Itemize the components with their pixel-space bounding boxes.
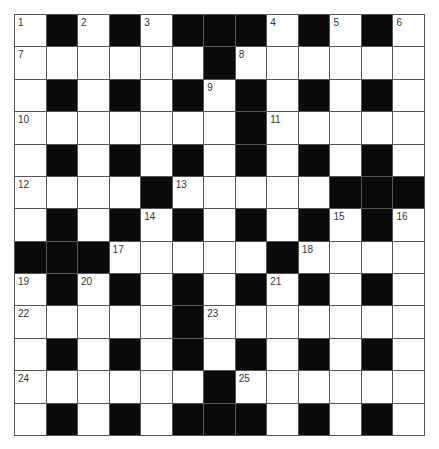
letter-cell[interactable] (141, 339, 172, 370)
letter-cell[interactable] (78, 177, 109, 208)
letter-cell[interactable] (330, 47, 361, 78)
letter-cell[interactable] (78, 404, 109, 435)
letter-cell[interactable]: 3 (141, 15, 172, 46)
letter-cell[interactable] (47, 371, 78, 402)
letter-cell[interactable]: 21 (267, 274, 298, 305)
letter-cell[interactable] (141, 306, 172, 337)
letter-cell[interactable]: 1 (15, 15, 46, 46)
letter-cell[interactable] (110, 177, 141, 208)
letter-cell[interactable] (110, 306, 141, 337)
letter-cell[interactable]: 7 (15, 47, 46, 78)
letter-cell[interactable] (299, 177, 330, 208)
letter-cell[interactable] (236, 306, 267, 337)
letter-cell[interactable] (393, 242, 424, 273)
letter-cell[interactable]: 18 (299, 242, 330, 273)
letter-cell[interactable] (78, 371, 109, 402)
letter-cell[interactable] (393, 145, 424, 176)
letter-cell[interactable] (47, 177, 78, 208)
letter-cell[interactable] (78, 47, 109, 78)
letter-cell[interactable] (47, 112, 78, 143)
letter-cell[interactable] (236, 177, 267, 208)
letter-cell[interactable] (173, 371, 204, 402)
letter-cell[interactable] (15, 209, 46, 240)
letter-cell[interactable] (299, 47, 330, 78)
letter-cell[interactable] (362, 242, 393, 273)
letter-cell[interactable]: 24 (15, 371, 46, 402)
letter-cell[interactable] (267, 177, 298, 208)
letter-cell[interactable]: 15 (330, 209, 361, 240)
letter-cell[interactable] (204, 242, 235, 273)
letter-cell[interactable] (78, 339, 109, 370)
letter-cell[interactable]: 20 (78, 274, 109, 305)
letter-cell[interactable] (362, 47, 393, 78)
letter-cell[interactable] (330, 274, 361, 305)
letter-cell[interactable]: 5 (330, 15, 361, 46)
letter-cell[interactable] (267, 209, 298, 240)
letter-cell[interactable] (267, 306, 298, 337)
letter-cell[interactable]: 12 (15, 177, 46, 208)
letter-cell[interactable] (362, 306, 393, 337)
letter-cell[interactable] (330, 306, 361, 337)
letter-cell[interactable] (173, 112, 204, 143)
letter-cell[interactable] (362, 112, 393, 143)
letter-cell[interactable]: 17 (110, 242, 141, 273)
letter-cell[interactable] (173, 242, 204, 273)
letter-cell[interactable] (393, 371, 424, 402)
letter-cell[interactable] (393, 306, 424, 337)
letter-cell[interactable] (204, 177, 235, 208)
letter-cell[interactable] (393, 80, 424, 111)
letter-cell[interactable] (110, 371, 141, 402)
letter-cell[interactable] (267, 80, 298, 111)
letter-cell[interactable] (78, 112, 109, 143)
letter-cell[interactable]: 10 (15, 112, 46, 143)
letter-cell[interactable] (15, 145, 46, 176)
letter-cell[interactable] (267, 145, 298, 176)
letter-cell[interactable] (78, 209, 109, 240)
letter-cell[interactable] (362, 371, 393, 402)
letter-cell[interactable]: 4 (267, 15, 298, 46)
letter-cell[interactable] (299, 112, 330, 143)
letter-cell[interactable] (330, 80, 361, 111)
letter-cell[interactable] (78, 306, 109, 337)
letter-cell[interactable] (47, 306, 78, 337)
letter-cell[interactable] (267, 47, 298, 78)
letter-cell[interactable] (110, 112, 141, 143)
letter-cell[interactable] (330, 339, 361, 370)
letter-cell[interactable] (15, 80, 46, 111)
letter-cell[interactable] (141, 242, 172, 273)
letter-cell[interactable] (393, 112, 424, 143)
letter-cell[interactable]: 19 (15, 274, 46, 305)
letter-cell[interactable] (393, 274, 424, 305)
letter-cell[interactable] (141, 274, 172, 305)
letter-cell[interactable] (110, 47, 141, 78)
letter-cell[interactable] (204, 112, 235, 143)
letter-cell[interactable] (330, 242, 361, 273)
letter-cell[interactable] (393, 47, 424, 78)
letter-cell[interactable]: 9 (204, 80, 235, 111)
letter-cell[interactable] (78, 145, 109, 176)
letter-cell[interactable] (393, 339, 424, 370)
letter-cell[interactable] (330, 404, 361, 435)
letter-cell[interactable] (15, 339, 46, 370)
letter-cell[interactable] (204, 209, 235, 240)
letter-cell[interactable]: 25 (236, 371, 267, 402)
letter-cell[interactable]: 14 (141, 209, 172, 240)
letter-cell[interactable] (267, 371, 298, 402)
letter-cell[interactable]: 13 (173, 177, 204, 208)
letter-cell[interactable]: 2 (78, 15, 109, 46)
letter-cell[interactable] (78, 80, 109, 111)
letter-cell[interactable] (141, 404, 172, 435)
letter-cell[interactable] (204, 339, 235, 370)
letter-cell[interactable] (267, 339, 298, 370)
letter-cell[interactable]: 6 (393, 15, 424, 46)
letter-cell[interactable]: 22 (15, 306, 46, 337)
letter-cell[interactable]: 11 (267, 112, 298, 143)
letter-cell[interactable] (393, 404, 424, 435)
letter-cell[interactable]: 23 (204, 306, 235, 337)
letter-cell[interactable] (204, 145, 235, 176)
letter-cell[interactable] (204, 274, 235, 305)
letter-cell[interactable] (236, 242, 267, 273)
letter-cell[interactable] (47, 47, 78, 78)
letter-cell[interactable] (15, 404, 46, 435)
letter-cell[interactable] (141, 145, 172, 176)
